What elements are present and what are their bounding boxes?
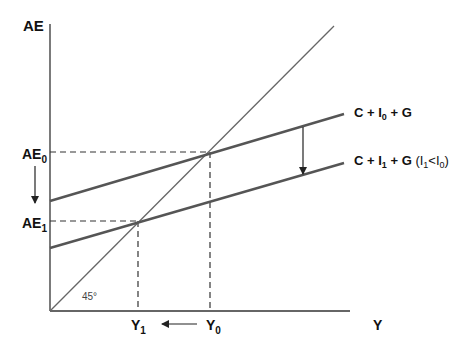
ae-line-upper <box>50 114 344 201</box>
y-axis-label: AE <box>23 17 44 34</box>
y0-label: Y0 <box>206 317 221 336</box>
y1-label: Y1 <box>131 317 146 336</box>
angle-label: 45° <box>82 291 97 302</box>
x-axis-label: Y <box>373 317 383 333</box>
lower-line-label: C + I1 + G (I1<I0) <box>354 153 449 170</box>
ae-line-lower <box>50 163 344 248</box>
upper-line-label: C + I0 + G <box>354 105 412 122</box>
forty-five-degree-line <box>50 26 334 311</box>
ae1-label: AE1 <box>22 215 47 234</box>
keynesian-cross-diagram: AE Y AE0 AE1 Y1 Y0 45° C + I0 + G C + I1… <box>0 0 474 350</box>
ae0-label: AE0 <box>22 146 47 165</box>
